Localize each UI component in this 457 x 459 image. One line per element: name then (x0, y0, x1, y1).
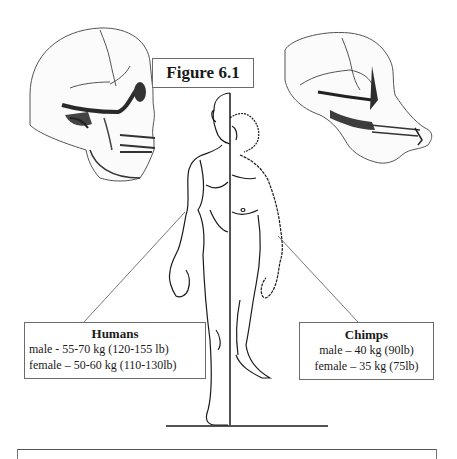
humans-label-box: Humans male - 55-70 kg (120-155 lb) fema… (24, 322, 206, 379)
chimps-female-weight: female – 35 kg (75lb) (300, 358, 433, 374)
caption-box-edge (17, 449, 437, 459)
humans-male-weight: male - 55-70 kg (120-155 lb) (25, 341, 205, 357)
chimp-skull-illustration (285, 32, 432, 163)
chimps-heading: Chimps (300, 327, 433, 342)
chimps-label-box: Chimps male – 40 kg (90lb) female – 35 k… (299, 322, 434, 380)
figure-title: Figure 6.1 (166, 63, 239, 82)
figure-title-box: Figure 6.1 (152, 58, 254, 88)
chimps-male-weight: male – 40 kg (90lb) (300, 342, 433, 358)
humans-female-weight: female – 50-60 kg (110-130lb) (25, 357, 205, 373)
humans-heading: Humans (25, 326, 205, 341)
human-skull-illustration (30, 28, 155, 181)
